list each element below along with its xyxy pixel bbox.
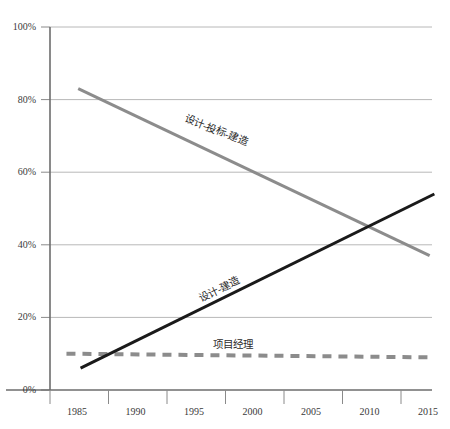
x-axis-ticks (50, 390, 401, 404)
series-label-project-manager: 项目经理 (213, 336, 253, 351)
y-axis-label-100: 100% (0, 21, 36, 32)
x-axis-label-2015: 2015 (408, 406, 448, 417)
series-line-design-build (81, 194, 435, 368)
chart-container: 100% 80% 60% 40% 20% 0% 1985 1990 1995 2… (0, 0, 450, 429)
y-axis-label-40: 40% (0, 239, 36, 250)
x-axis-label-1995: 1995 (174, 406, 214, 417)
series-line-project-manager (66, 354, 429, 358)
x-axis-label-2005: 2005 (291, 406, 331, 417)
y-axis-label-60: 60% (0, 166, 36, 177)
x-axis-label-2000: 2000 (233, 406, 273, 417)
gridlines (50, 27, 432, 317)
series-lines (66, 89, 434, 369)
x-axis-label-1985: 1985 (57, 406, 97, 417)
x-axis-label-2010: 2010 (350, 406, 390, 417)
y-axis-label-80: 80% (0, 94, 36, 105)
y-axis-ticks (41, 27, 50, 390)
x-axis-label-1990: 1990 (116, 406, 156, 417)
y-axis-label-20: 20% (0, 311, 36, 322)
y-axis-label-0: 0% (0, 384, 36, 395)
chart-plot-area (0, 0, 450, 429)
